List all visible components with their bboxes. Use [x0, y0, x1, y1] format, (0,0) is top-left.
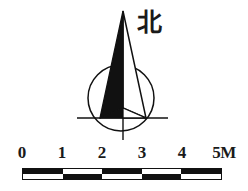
north-direction-label: 北 [134, 8, 164, 40]
scale-tick-label-4: 4 [169, 143, 195, 163]
map-legend: 北 0 1 2 3 4 5M [0, 0, 248, 191]
scale-tick-label-3: 3 [129, 143, 155, 163]
scale-cell-bottom-1 [63, 174, 103, 179]
north-arrow-left-half-icon [100, 11, 123, 118]
scale-cell-bottom-0 [23, 174, 63, 179]
scale-bar: 0 1 2 3 4 5M [0, 143, 248, 191]
scale-tick-label-5-with-unit: 5M [204, 143, 244, 163]
scale-cell-bottom-3 [142, 174, 182, 179]
scale-tick-label-2: 2 [89, 143, 115, 163]
scale-cell-bottom-4 [181, 174, 221, 179]
north-arrow-compass: 北 [0, 0, 248, 148]
scale-tick-label-1: 1 [49, 143, 75, 163]
scale-cell-bottom-2 [102, 174, 142, 179]
scale-tick-label-0: 0 [9, 143, 35, 163]
compass-graphic [0, 0, 248, 148]
scale-bar-graphic [22, 168, 222, 180]
